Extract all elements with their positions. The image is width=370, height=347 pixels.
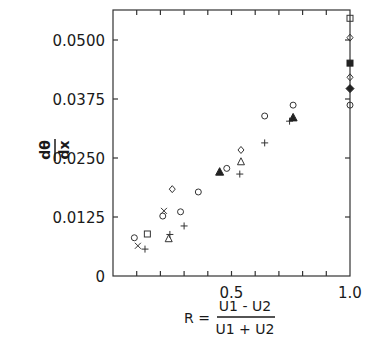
diamond-filled-marker <box>346 85 354 93</box>
circle-marker <box>131 235 137 241</box>
x-axis-label: R = U1 - U2 U1 + U2 <box>184 298 275 337</box>
circle-marker <box>195 189 201 195</box>
plus-marker <box>261 139 268 146</box>
x-ticks <box>137 10 327 276</box>
plus-marker <box>181 222 188 229</box>
y-tick-label: 0 <box>95 268 105 286</box>
diamond-marker <box>169 186 175 193</box>
x-label-numerator: U1 - U2 <box>219 298 271 314</box>
y-label-numerator: dθ <box>37 140 53 160</box>
triangle-marker <box>165 235 172 242</box>
cross-marker <box>135 243 141 249</box>
y-ticks <box>113 40 350 217</box>
triangle-filled-marker <box>216 168 224 176</box>
y-tick-label: 0.0500 <box>53 32 106 50</box>
x-label-lhs: R = <box>184 310 210 326</box>
plot-frame <box>113 10 350 276</box>
square-marker <box>144 231 150 237</box>
diamond-marker <box>238 146 244 153</box>
circle-marker <box>290 102 296 108</box>
circle-marker <box>224 165 230 171</box>
triangle-filled-marker <box>289 113 297 121</box>
circle-marker <box>178 209 184 215</box>
square-filled-marker <box>347 60 353 66</box>
y-tick-label: 0.0125 <box>53 209 106 227</box>
x-tick-label: 1.0 <box>338 284 362 302</box>
scatter-chart: 0.51.0 00.01250.02500.03750.0500 dθ dx R… <box>0 0 370 347</box>
circle-marker <box>262 113 268 119</box>
y-axis-label: dθ dx <box>37 139 72 161</box>
circle-marker <box>160 213 166 219</box>
y-label-denominator: dx <box>56 140 72 159</box>
data-points <box>131 15 354 252</box>
triangle-marker <box>237 158 244 165</box>
plus-marker <box>141 246 148 253</box>
y-tick-label: 0.0375 <box>53 91 106 109</box>
x-label-denominator: U1 + U2 <box>216 321 275 337</box>
plus-marker <box>236 171 243 178</box>
